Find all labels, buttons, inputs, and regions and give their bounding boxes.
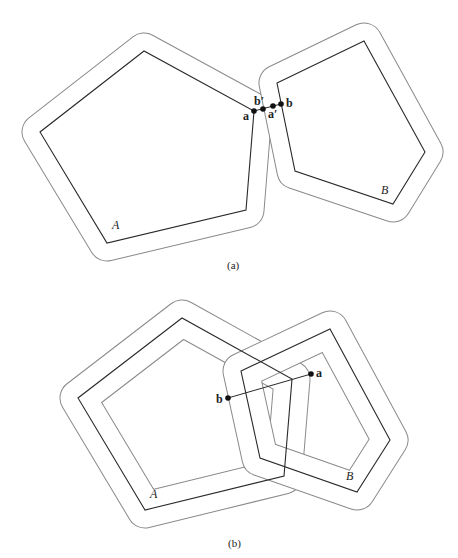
caption-a: (a) [227,259,239,271]
label-polygon-B: B [381,183,388,198]
label-a: a [316,366,322,381]
label-polygon-A: A [112,218,119,233]
point-b [225,395,231,401]
point-b [278,101,284,107]
label-b: b [216,392,223,407]
figure: a b′ a′ b A B (a) a b A B (b) [0,0,458,558]
point-a [251,108,257,114]
diagram-svg [0,0,458,558]
point-a [308,371,314,377]
polygon-A-offset-fill [40,51,254,243]
label-a: a [243,109,249,124]
label-b: b [286,96,293,111]
panel-b [78,318,390,510]
polygon-B-offset-fill [277,41,425,204]
label-polygon-A: A [150,487,157,502]
panel-a [40,41,425,243]
label-polygon-B: B [346,469,353,484]
label-b-prime: b′ [254,94,264,109]
label-a-prime: a′ [268,107,277,122]
caption-b: (b) [228,537,241,549]
